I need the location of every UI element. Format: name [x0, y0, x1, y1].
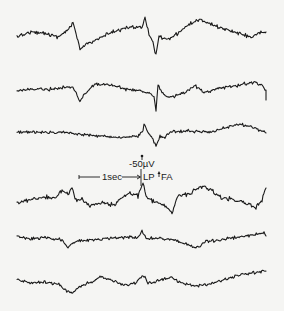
lp-label: LP	[143, 171, 155, 182]
time-label: 1sec	[102, 171, 122, 182]
eeg-plot: -50µV 1sec LP FA	[0, 0, 284, 311]
eeg-figure: -50µV 1sec LP FA	[0, 0, 284, 311]
eeg-trace-5	[17, 230, 266, 248]
calibration-annotations: -50µV 1sec LP FA	[79, 155, 173, 186]
amplitude-label: -50µV	[129, 158, 155, 169]
eeg-trace-3	[17, 123, 266, 146]
eeg-trace-1	[17, 17, 266, 54]
fa-label: FA	[161, 171, 173, 182]
eeg-trace-4	[17, 183, 266, 214]
eeg-trace-2	[17, 82, 266, 112]
eeg-trace-6	[17, 270, 266, 293]
